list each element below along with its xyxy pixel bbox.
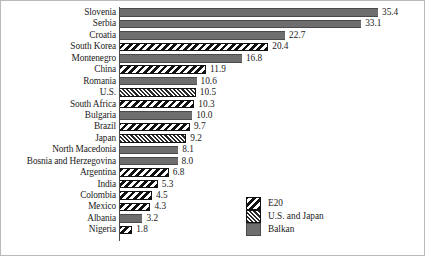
value-label: 10.5 (196, 87, 216, 98)
bar-row: North Macedonia8.1 (1, 144, 425, 155)
legend-item: Balkan (246, 223, 366, 236)
value-label: 10.3 (194, 99, 214, 110)
bar-track: 35.4 (119, 7, 425, 18)
category-label: China (1, 64, 119, 75)
value-label: 5.3 (158, 179, 174, 190)
bar-balkan (119, 54, 242, 63)
category-label: Serbia (1, 18, 119, 29)
value-label: 9.7 (190, 121, 206, 132)
category-label: South Korea (1, 41, 119, 52)
category-label: South Africa (1, 99, 119, 110)
bar-row: Romania10.6 (1, 76, 425, 87)
bar-e20 (119, 203, 150, 212)
category-label: Colombia (1, 190, 119, 201)
bar-row: Argentina6.8 (1, 167, 425, 178)
category-label: Bosnia and Herzegovina (1, 156, 119, 167)
value-label: 16.8 (242, 53, 262, 64)
value-label: 10.6 (197, 76, 217, 87)
category-label: Bulgaria (1, 110, 119, 121)
bar-row: Bosnia and Herzegovina8.0 (1, 156, 425, 167)
bar-track: 16.8 (119, 53, 425, 64)
category-label: North Macedonia (1, 144, 119, 155)
bar-track: 10.6 (119, 76, 425, 87)
bar-row: India5.3 (1, 179, 425, 190)
bar-row: Serbia33.1 (1, 18, 425, 29)
bar-row: Montenegro16.8 (1, 53, 425, 64)
bar-track: 33.1 (119, 18, 425, 29)
bar-row: Croatia22.7 (1, 30, 425, 41)
value-label: 22.7 (285, 30, 305, 41)
bar-row: South Korea20.4 (1, 41, 425, 52)
legend-label: Balkan (261, 223, 294, 236)
bar-balkan (119, 157, 178, 166)
bar-balkan (119, 146, 178, 155)
bar-usjapan (119, 134, 186, 143)
bar-balkan (119, 8, 378, 17)
category-label: Brazil (1, 121, 119, 132)
value-label: 9.2 (186, 133, 202, 144)
bar-balkan (119, 214, 142, 223)
category-label: Romania (1, 76, 119, 87)
category-label: Croatia (1, 30, 119, 41)
bar-e20 (119, 100, 194, 109)
bar-usjapan (119, 88, 196, 97)
legend-swatch-usjapan (246, 210, 261, 223)
bar-balkan (119, 20, 361, 29)
value-label: 33.1 (361, 18, 381, 29)
category-label: Nigeria (1, 224, 119, 235)
bar-balkan (119, 31, 285, 40)
legend-item: E20 (246, 197, 366, 210)
chart-figure: Slovenia35.4Serbia33.1Croatia22.7South K… (0, 0, 425, 256)
value-label: 20.4 (268, 41, 288, 52)
bar-balkan (119, 111, 192, 120)
value-label: 8.0 (178, 156, 194, 167)
bar-track: 10.3 (119, 99, 425, 110)
bar-row: China11.9 (1, 64, 425, 75)
bar-row: Slovenia35.4 (1, 7, 425, 18)
bar-track: 8.1 (119, 144, 425, 155)
category-label: India (1, 179, 119, 190)
value-axis-line (119, 7, 120, 241)
value-label: 35.4 (378, 7, 398, 18)
category-label: Albania (1, 213, 119, 224)
bar-row: Brazil9.7 (1, 121, 425, 132)
bar-e20 (119, 65, 206, 74)
bar-row: Bulgaria10.0 (1, 110, 425, 121)
bar-e20 (119, 226, 132, 235)
bar-e20 (119, 191, 152, 200)
legend-item: U.S. and Japan (246, 210, 366, 223)
bar-row: Japan9.2 (1, 133, 425, 144)
bar-track: 11.9 (119, 64, 425, 75)
legend-label: E20 (261, 197, 283, 210)
value-label: 11.9 (206, 64, 226, 75)
category-label: Slovenia (1, 7, 119, 18)
chart-legend: E20U.S. and JapanBalkan (246, 197, 366, 236)
value-label: 4.3 (150, 201, 166, 212)
category-label: Mexico (1, 201, 119, 212)
bar-e20 (119, 43, 268, 52)
category-label: Japan (1, 133, 119, 144)
value-label: 1.8 (132, 224, 148, 235)
bar-track: 5.3 (119, 179, 425, 190)
category-label: U.S. (1, 87, 119, 98)
legend-label: U.S. and Japan (261, 210, 324, 223)
legend-swatch-e20 (246, 197, 261, 210)
value-label: 8.1 (178, 144, 194, 155)
bar-track: 9.7 (119, 121, 425, 132)
legend-swatch-balkan (246, 223, 261, 236)
value-label: 6.8 (169, 167, 185, 178)
bar-e20 (119, 168, 169, 177)
bar-e20 (119, 123, 190, 132)
bar-track: 10.5 (119, 87, 425, 98)
category-label: Montenegro (1, 53, 119, 64)
value-label: 4.5 (152, 190, 168, 201)
bar-track: 20.4 (119, 41, 425, 52)
bar-balkan (119, 77, 197, 86)
bar-track: 22.7 (119, 30, 425, 41)
bar-track: 10.0 (119, 110, 425, 121)
bar-track: 8.0 (119, 156, 425, 167)
bar-row: U.S.10.5 (1, 87, 425, 98)
bar-row: South Africa10.3 (1, 99, 425, 110)
value-label: 3.2 (142, 213, 158, 224)
bar-track: 6.8 (119, 167, 425, 178)
